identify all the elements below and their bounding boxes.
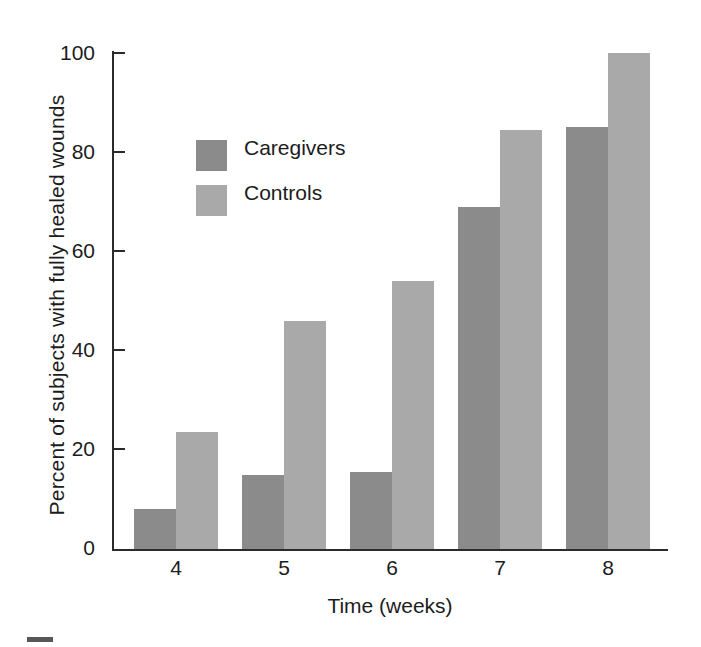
legend: Caregivers Controls — [196, 136, 426, 226]
y-axis-tick-label: 60 — [33, 239, 95, 263]
x-axis-tick-label: 5 — [244, 556, 324, 580]
bar-controls — [176, 432, 218, 549]
x-axis-tick-label: 8 — [568, 556, 648, 580]
bar-group — [350, 53, 434, 549]
bar-controls — [392, 281, 434, 549]
bar-group — [242, 53, 326, 549]
y-axis-tick-label-group: 100 80 60 40 20 0 — [33, 0, 95, 647]
legend-item-label: Caregivers — [244, 136, 346, 160]
legend-swatch-icon — [196, 140, 227, 171]
plot-area — [112, 53, 665, 549]
x-axis-title: Time (weeks) — [112, 594, 668, 618]
bar-chart-figure: Percent of subjects with fully healed wo… — [0, 0, 701, 647]
y-axis-tick-label: 40 — [33, 338, 95, 362]
bar-caregivers — [350, 472, 392, 549]
y-axis-tick-label: 0 — [33, 536, 95, 560]
legend-item-label: Controls — [244, 181, 322, 205]
bar-group — [458, 53, 542, 549]
bar-caregivers — [458, 207, 500, 549]
x-axis-tick-label: 4 — [136, 556, 216, 580]
legend-swatch-icon — [196, 185, 227, 216]
legend-item-controls: Controls — [196, 181, 426, 226]
scan-artifact-mark — [27, 637, 53, 642]
bar-caregivers — [242, 475, 284, 549]
x-axis-line — [112, 549, 668, 551]
bar-controls — [608, 53, 650, 549]
bar-group — [134, 53, 218, 549]
y-axis-tick-label: 20 — [33, 437, 95, 461]
x-axis-tick-label: 6 — [352, 556, 432, 580]
bar-caregivers — [566, 127, 608, 549]
y-axis-tick-label: 100 — [33, 41, 95, 65]
bar-controls — [500, 130, 542, 549]
bar-caregivers — [134, 509, 176, 549]
bar-controls — [284, 321, 326, 549]
bar-group — [566, 53, 650, 549]
y-axis-tick-label: 80 — [33, 140, 95, 164]
legend-item-caregivers: Caregivers — [196, 136, 426, 181]
x-axis-tick-label: 7 — [460, 556, 540, 580]
